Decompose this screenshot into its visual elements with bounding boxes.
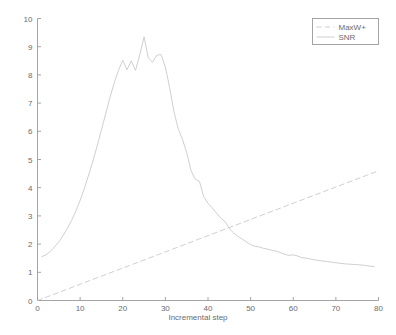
legend-label-maxw-: MaxW+ bbox=[339, 23, 367, 32]
series-line-maxw- bbox=[38, 171, 379, 301]
y-tick-label: 1 bbox=[28, 268, 33, 277]
x-tick-label: 0 bbox=[35, 304, 40, 313]
chart-legend[interactable]: MaxW+SNR bbox=[313, 19, 379, 45]
y-tick-label: 4 bbox=[28, 184, 33, 193]
x-tick-label: 60 bbox=[289, 304, 298, 313]
x-tick-label: 20 bbox=[118, 304, 127, 313]
x-tick-label: 30 bbox=[161, 304, 170, 313]
tick-labels: 01234567891001020304050607080 bbox=[24, 15, 384, 313]
x-tick-label: 40 bbox=[204, 304, 213, 313]
data-series bbox=[38, 37, 379, 301]
y-tick-label: 3 bbox=[28, 212, 33, 221]
x-tick-label: 10 bbox=[76, 304, 85, 313]
y-tick-label: 2 bbox=[28, 240, 33, 249]
y-tick-label: 7 bbox=[28, 99, 33, 108]
x-tick-label: 50 bbox=[246, 304, 255, 313]
series-line-snr bbox=[42, 37, 374, 267]
y-tick-label: 9 bbox=[28, 43, 33, 52]
y-tick-label: 5 bbox=[28, 156, 33, 165]
x-tick-label: 80 bbox=[374, 304, 383, 313]
y-tick-label: 8 bbox=[28, 71, 33, 80]
y-tick-label: 6 bbox=[28, 127, 33, 136]
y-tick-label: 0 bbox=[28, 297, 33, 306]
legend-label-snr: SNR bbox=[339, 33, 356, 42]
x-tick-label: 70 bbox=[331, 304, 340, 313]
line-chart: 01234567891001020304050607080 MaxW+SNR I… bbox=[0, 0, 396, 335]
axes bbox=[38, 19, 379, 301]
y-tick-label: 10 bbox=[24, 15, 33, 24]
x-axis-label: Incremental step bbox=[168, 313, 228, 322]
chart-figure: 01234567891001020304050607080 MaxW+SNR I… bbox=[0, 0, 396, 335]
